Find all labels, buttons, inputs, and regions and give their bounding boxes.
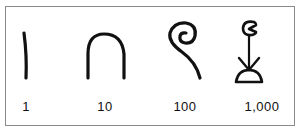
heel-bone-icon bbox=[82, 28, 132, 83]
label-1: 1 bbox=[1, 99, 51, 114]
label-100: 100 bbox=[160, 99, 210, 114]
lotus-flower-icon bbox=[228, 18, 273, 88]
label-10: 10 bbox=[80, 99, 130, 114]
stroke-icon bbox=[15, 28, 35, 83]
label-1000: 1,000 bbox=[237, 99, 287, 114]
coil-of-rope-icon bbox=[162, 20, 207, 85]
